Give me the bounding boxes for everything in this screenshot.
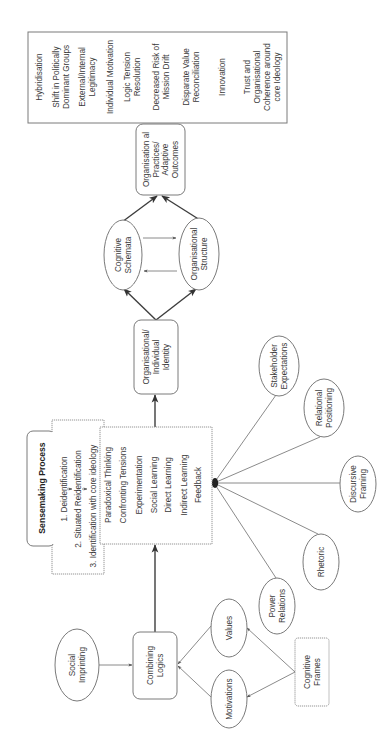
adaptive-outcomes-node-label-line: Organisation al [142,132,151,187]
outcome-item-label-line: Logic Tension [123,52,132,102]
sensemaking-stage-text: 3. Identification with core ideology [89,444,98,568]
rhetoric-node: Rhetoric [303,534,339,590]
sensemaking-stage: 2. Situated Reidentification [74,450,83,548]
outcome-item-label: Hybridisation [35,53,44,101]
edge-cognitive-frames-to-motivations [247,672,295,697]
combining-logics-node-label-line: Logics [156,654,165,678]
outcome-item-label: Innovation [218,58,227,96]
sensemaking-process: Sensemaking Process1. Deidentification2.… [27,420,104,574]
outcome-item-label-line: Decreased Risk of [152,43,161,111]
cognitive-frames-node: CognitiveFrames [295,638,329,706]
values-node-label: Values [225,616,234,640]
discursive-framing-node-label-line: Discursive [349,465,358,503]
relational-positioning-node: RelationalPositioning [304,379,344,437]
relational-positioning-node-label-line: Positioning [325,388,334,429]
outcome-item-label-line: Resolution [133,57,142,96]
discursive-framing-node-label: DiscursiveFraming [349,465,368,503]
motivations-node-label: Motivations [225,678,234,719]
motivations-node: Motivations [211,670,247,728]
combining-logics-node-label-line: Combining [146,645,155,685]
social-imprinting-node: SocialImprinting [55,629,99,701]
adaptive-outcomes-node-label-line: Practices/ [152,141,161,178]
outcome-item-label-line: Shift in Politically [52,45,61,107]
adaptive-outcomes-node-label-line: Outcomes [171,141,180,178]
practice-item-text: Feedback [194,466,203,503]
cognitive-schemata-node-label: CognitiveSchemata [114,236,133,273]
cognitive-schemata-node-label-line: Cognitive [114,237,123,272]
rhetoric-node-label: Rhetoric [317,547,326,578]
sensemaking-stage: 3. Identification with core ideology [89,444,98,568]
rhetoric-node-label-line: Rhetoric [317,547,326,578]
practice-item: Social Learning [150,456,159,513]
cognitive-schemata-node: CognitiveSchemata [104,220,142,290]
outcome-item-label-line: core Ideology [273,52,282,102]
practice-item: Indirect Learning [180,454,189,515]
combining-logics-node: CombiningLogics [133,632,177,699]
outcome-item-label-line: Individual Motivation [106,39,115,114]
outcome-item-label-line: Mission Drift [162,54,171,100]
values-node: Values [211,599,247,657]
discursive-framing-node-label-line: Framing [359,469,368,499]
practice-item-text: Experimentation [135,455,144,515]
practice-item-text: Paradoxical Thinking [104,447,113,523]
identity-node-label-line: Individual [152,340,161,375]
social-imprinting-node-label-line: Imprinting [78,647,87,683]
identity-node: Organisational/IndividualIdentity [134,320,178,394]
outcome-item-label-line: Hybridisation [35,53,44,101]
edge-cognitive-schemata-to-outcomes [122,196,157,222]
cognitive-frames-node-label-line: Cognitive [303,654,312,689]
outcome-item-label-line: Organisational [253,50,262,103]
outcome-item-label: Logic TensionResolution [123,52,142,102]
practice-item-text: Indirect Learning [180,454,189,515]
stakeholder-expectations-node-label: StakeholderExpectations [270,343,289,390]
edge-hub-to-power-relations [214,483,276,578]
stakeholder-expectations-node-label-line: Expectations [280,343,289,390]
practices-box: Paradoxical ThinkingConfronting Tensions… [100,427,212,544]
stakeholder-expectations-node-label-line: Stakeholder [270,344,279,388]
edge-hub-to-rhetoric [214,483,318,534]
outcome-item-label-line: External/Internal [78,47,87,107]
adaptive-outcomes-node: Organisation alPractices/AdaptiveOutcome… [136,124,185,195]
sensemaking-title: Sensemaking Process [37,442,47,533]
hub-point [212,478,218,488]
edge-identity-to-organisational-structure [156,289,196,320]
practice-item-text: Direct Learning [164,457,173,513]
relational-positioning-node-label-line: Relational [315,390,324,427]
outcome-item-label-line: Reconciliation [192,51,201,102]
cognitive-schemata-node-label-line: Schemata [124,236,133,273]
organisational-structure-node: OrganisationalStructure [179,218,219,290]
nodes: SocialImprintingCombiningLogicsValuesMot… [27,32,376,728]
power-relations-node: PowerRelations [259,578,295,634]
edge-motivations-to-combining-logics [178,666,211,697]
practice-item: Confronting Tensions [119,447,128,524]
practice-item: Experimentation [135,455,144,515]
edge-cognitive-frames-to-values [247,628,295,672]
outcome-item-label: Shift in PoliticallyDominant Groups [52,45,71,109]
values-node-label-line: Values [225,616,234,640]
relational-positioning-node-label: RelationalPositioning [315,388,334,429]
organisational-structure-node-label-line: Organisational [190,227,199,280]
outcomes-list: HybridisationShift in PoliticallyDominan… [28,32,287,123]
organisational-structure-node-label-line: Structure [200,237,209,271]
practice-item-text: Social Learning [150,456,159,513]
adaptive-outcomes-node-label-line: Adaptive [161,143,170,175]
edge-organisational-structure-to-outcomes [162,196,200,220]
discursive-framing-node: DiscursiveFraming [340,456,376,512]
outcome-item-label: Individual Motivation [106,39,115,114]
motivations-node-label-line: Motivations [225,678,234,719]
practice-item: Feedback [194,466,203,503]
outcome-item-label-line: Dominant Groups [62,45,71,109]
power-relations-node-label-line: Relations [278,589,287,623]
outcome-item-label-line: Disparate Value [182,48,191,106]
outcome-item-label-line: Coherence around [263,43,272,111]
edge-values-to-combining-logics [178,626,211,664]
outcome-item-label-line: Legitimacy [88,57,97,97]
practice-item: Paradoxical Thinking [104,447,113,523]
power-relations-node-label-line: Power [268,594,277,617]
social-imprinting-node-label-line: Social [68,654,77,676]
cognitive-frames-node-label: CognitiveFrames [303,654,322,689]
practice-item: Direct Learning [164,457,173,513]
sensemaking-diagram: SocialImprintingCombiningLogicsValuesMot… [0,0,390,747]
outcome-item-label-line: Trust and [243,59,252,94]
outcome-item-label: Disparate ValueReconciliation [182,48,201,106]
